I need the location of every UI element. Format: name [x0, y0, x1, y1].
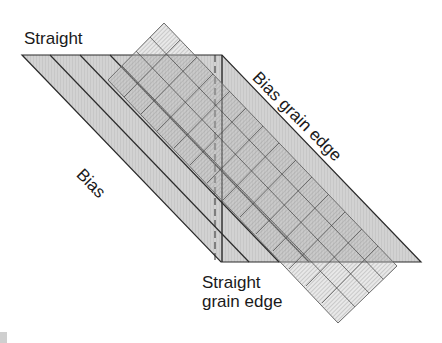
straight-label: Straight	[24, 29, 83, 48]
corner-mark	[0, 332, 7, 343]
straight-grain-edge-label-line2: grain edge	[202, 292, 282, 311]
straight-grain-edge-label-line1: Straight	[202, 273, 261, 292]
